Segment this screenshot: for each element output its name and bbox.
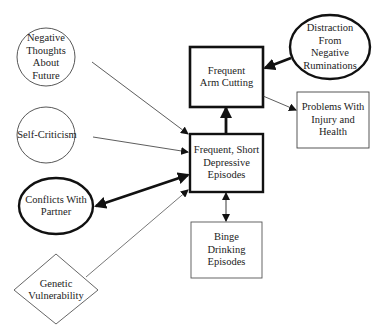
edge-negative-thoughts-to-depressive: [92, 62, 188, 134]
edge-distraction-to-arm-cutting: [265, 58, 291, 68]
node-problems-injury-label: Problems With Injury and Health: [297, 92, 369, 148]
node-genetic-vulnerability-label: Genetic Vulnerability: [14, 275, 98, 305]
node-self-criticism-label: Self-Criticism: [14, 120, 80, 150]
edge-arm-cutting-to-problems: [263, 96, 296, 110]
node-binge-drinking-label: Binge Drinking Episodes: [191, 222, 262, 278]
edge-self-criticism-to-depressive: [93, 137, 188, 152]
node-depressive-episodes-label: Frequent, Short Depressive Episodes: [188, 134, 265, 192]
node-negative-thoughts-label: Negative Thoughts About Future: [17, 28, 75, 86]
node-conflicts-partner-label: Conflicts With Partner: [19, 190, 93, 222]
node-arm-cutting-label: Frequent Arm Cutting: [190, 47, 263, 107]
node-distraction-label: Distraction From Negative Ruminations: [290, 15, 370, 79]
